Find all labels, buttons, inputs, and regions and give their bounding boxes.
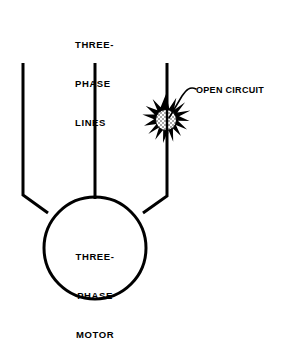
lines-label-row-2: PHASE — [75, 77, 114, 90]
three-phase-lines-label: THREE- PHASE LINES — [75, 12, 114, 155]
motor-label-row-2: PHASE — [43, 289, 147, 302]
three-phase-motor-label: THREE- PHASE MOTOR — [43, 224, 147, 342]
motor-label-row-1: THREE- — [43, 250, 147, 263]
lines-label-row-3: LINES — [75, 116, 114, 129]
motor-label-row-3: MOTOR — [43, 328, 147, 341]
open-circuit-label: OPEN CIRCUIT — [196, 84, 264, 97]
phase-line-left — [23, 63, 48, 213]
lines-label-row-1: THREE- — [75, 38, 114, 51]
